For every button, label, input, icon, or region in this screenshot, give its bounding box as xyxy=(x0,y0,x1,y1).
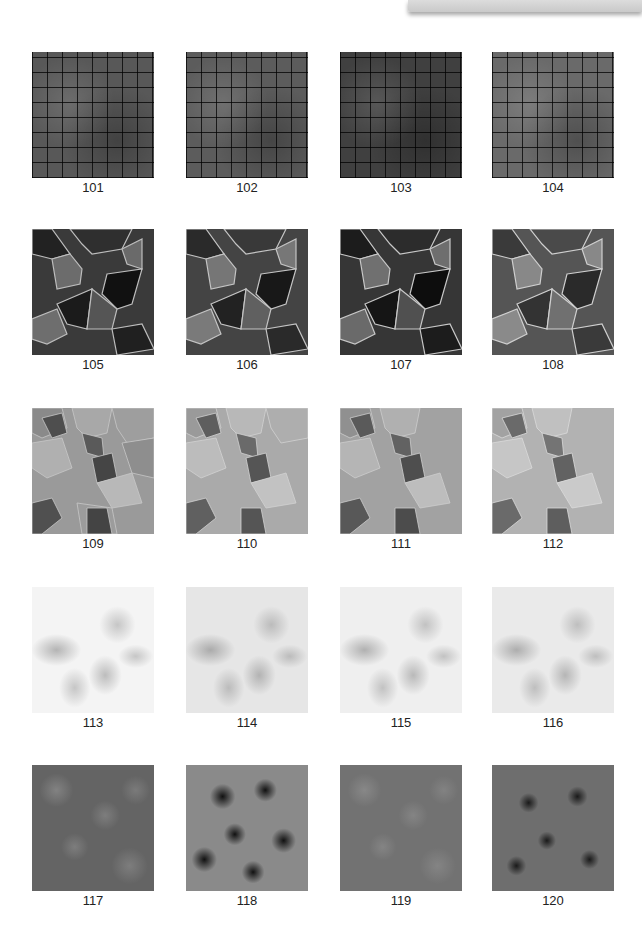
texture-swatch-120[interactable]: 120 xyxy=(492,765,614,909)
texture-swatch-104[interactable]: 104 xyxy=(492,52,614,196)
texture-swatch-105[interactable]: 105 xyxy=(32,229,154,373)
texture-swatch-103[interactable]: 103 xyxy=(340,52,462,196)
swatch-label: 116 xyxy=(492,715,614,731)
swatch-label: 107 xyxy=(340,357,462,373)
texture-image-flagstone xyxy=(186,408,308,534)
texture-image-stone xyxy=(32,229,154,355)
swatch-label: 108 xyxy=(492,357,614,373)
texture-image-marble xyxy=(340,587,462,713)
swatch-label: 103 xyxy=(340,180,462,196)
texture-swatch-109[interactable]: 109 xyxy=(32,408,154,552)
texture-image-granite xyxy=(32,765,154,891)
texture-swatch-106[interactable]: 106 xyxy=(186,229,308,373)
swatch-label: 115 xyxy=(340,715,462,731)
texture-swatch-111[interactable]: 111 xyxy=(340,408,462,552)
texture-image-granite xyxy=(492,765,614,891)
texture-swatch-117[interactable]: 117 xyxy=(32,765,154,909)
texture-swatch-114[interactable]: 114 xyxy=(186,587,308,731)
texture-swatch-108[interactable]: 108 xyxy=(492,229,614,373)
texture-image-flagstone xyxy=(492,408,614,534)
texture-swatch-119[interactable]: 119 xyxy=(340,765,462,909)
texture-swatch-118[interactable]: 118 xyxy=(186,765,308,909)
texture-image-stone xyxy=(492,229,614,355)
swatch-label: 118 xyxy=(186,893,308,909)
texture-image-brick xyxy=(32,52,154,178)
texture-image-flagstone xyxy=(32,408,154,534)
swatch-label: 105 xyxy=(32,357,154,373)
texture-swatch-115[interactable]: 115 xyxy=(340,587,462,731)
texture-image-brick xyxy=(186,52,308,178)
texture-image-flagstone xyxy=(340,408,462,534)
texture-image-granite xyxy=(340,765,462,891)
texture-swatch-102[interactable]: 102 xyxy=(186,52,308,196)
texture-swatch-107[interactable]: 107 xyxy=(340,229,462,373)
texture-image-brick xyxy=(492,52,614,178)
swatch-label: 120 xyxy=(492,893,614,909)
texture-swatch-116[interactable]: 116 xyxy=(492,587,614,731)
texture-swatch-101[interactable]: 101 xyxy=(32,52,154,196)
texture-image-granite xyxy=(186,765,308,891)
texture-image-marble xyxy=(492,587,614,713)
swatch-label: 111 xyxy=(340,536,462,552)
texture-image-brick xyxy=(340,52,462,178)
texture-swatch-112[interactable]: 112 xyxy=(492,408,614,552)
texture-swatch-110[interactable]: 110 xyxy=(186,408,308,552)
page-header-tab xyxy=(408,0,642,12)
swatch-label: 110 xyxy=(186,536,308,552)
texture-image-stone xyxy=(340,229,462,355)
swatch-label: 114 xyxy=(186,715,308,731)
swatch-label: 117 xyxy=(32,893,154,909)
swatch-label: 109 xyxy=(32,536,154,552)
swatch-label: 104 xyxy=(492,180,614,196)
swatch-label: 101 xyxy=(32,180,154,196)
swatch-label: 102 xyxy=(186,180,308,196)
texture-image-marble xyxy=(186,587,308,713)
swatch-label: 113 xyxy=(32,715,154,731)
swatch-label: 119 xyxy=(340,893,462,909)
swatch-label: 106 xyxy=(186,357,308,373)
swatch-label: 112 xyxy=(492,536,614,552)
texture-image-stone xyxy=(186,229,308,355)
texture-image-marble xyxy=(32,587,154,713)
texture-swatch-113[interactable]: 113 xyxy=(32,587,154,731)
